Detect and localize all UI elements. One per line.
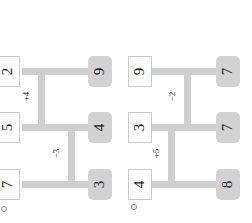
- node-label: 7: [221, 124, 236, 132]
- node-label: 2: [1, 68, 16, 76]
- pipe-bottom-horizontal: [150, 181, 222, 188]
- diagram-left: 2 5 7 9 4 3 +4 −3: [0, 0, 126, 223]
- pipe-top-horizontal: [22, 68, 94, 75]
- node-right-top[interactable]: 7: [216, 56, 240, 87]
- pipe-upper-branch: [184, 68, 191, 128]
- pipe-bottom-horizontal: [22, 181, 94, 188]
- node-label: 3: [93, 181, 108, 189]
- edge-label-lower: −3: [52, 149, 61, 159]
- diagram-canvas: 2 5 7 9 4 3 +4 −3 9: [0, 0, 252, 223]
- node-label: 8: [221, 181, 236, 189]
- node-label: 5: [1, 124, 16, 132]
- pipe-lower-branch: [168, 124, 175, 184]
- pipe-middle-horizontal: [22, 124, 94, 131]
- node-right-bottom[interactable]: 8: [216, 169, 240, 200]
- pipe-lower-branch: [68, 124, 75, 184]
- node-left-bottom[interactable]: 7: [0, 169, 20, 200]
- node-left-top[interactable]: 2: [0, 56, 20, 87]
- edge-label-upper: +4: [22, 92, 31, 102]
- node-left-middle[interactable]: 5: [0, 112, 20, 143]
- edge-label-upper: −2: [168, 92, 177, 102]
- node-label: 9: [133, 68, 148, 76]
- diagram-right: 9 3 4 7 7 8 −2 +5: [128, 0, 252, 223]
- node-label: 3: [133, 124, 148, 132]
- node-right-top[interactable]: 9: [88, 56, 112, 87]
- node-right-middle[interactable]: 4: [88, 112, 112, 143]
- node-right-middle[interactable]: 7: [216, 112, 240, 143]
- circle-marker-icon: [131, 204, 137, 210]
- node-label: 4: [133, 181, 148, 189]
- node-label: 9: [93, 68, 108, 76]
- edge-label-lower: +5: [152, 149, 161, 159]
- node-left-top[interactable]: 9: [128, 56, 152, 87]
- node-label: 7: [1, 181, 16, 189]
- node-label: 7: [221, 68, 236, 76]
- node-right-bottom[interactable]: 3: [88, 169, 112, 200]
- pipe-upper-branch: [38, 68, 45, 128]
- node-label: 4: [93, 124, 108, 132]
- node-left-bottom[interactable]: 4: [128, 169, 152, 200]
- node-left-middle[interactable]: 3: [128, 112, 152, 143]
- circle-marker-icon: [1, 206, 7, 212]
